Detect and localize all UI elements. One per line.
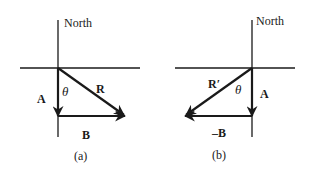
vector-a-label: A: [260, 87, 269, 101]
caption-b: (b): [212, 148, 226, 162]
vector-a-label: A: [37, 92, 46, 106]
vector-r-prime-label: R′: [208, 77, 220, 91]
diagram-svg: North θ A R B (a) North θ R′ A –B (b): [0, 0, 312, 178]
vector-r-prime-arrow: [186, 68, 252, 115]
vector-b-label: B: [82, 128, 90, 142]
vector-diagram: North θ A R B (a) North θ R′ A –B (b): [0, 0, 312, 178]
caption-a: (a): [74, 149, 87, 163]
north-label: North: [64, 16, 92, 30]
vector-neg-b-label: –B: [211, 126, 226, 140]
vector-r-label: R: [96, 82, 105, 96]
angle-theta-label: θ: [235, 82, 242, 97]
panel-b: North θ R′ A –B (b): [175, 14, 295, 162]
north-label: North: [256, 14, 284, 28]
angle-theta-label: θ: [62, 84, 69, 99]
panel-a: North θ A R B (a): [20, 16, 140, 163]
